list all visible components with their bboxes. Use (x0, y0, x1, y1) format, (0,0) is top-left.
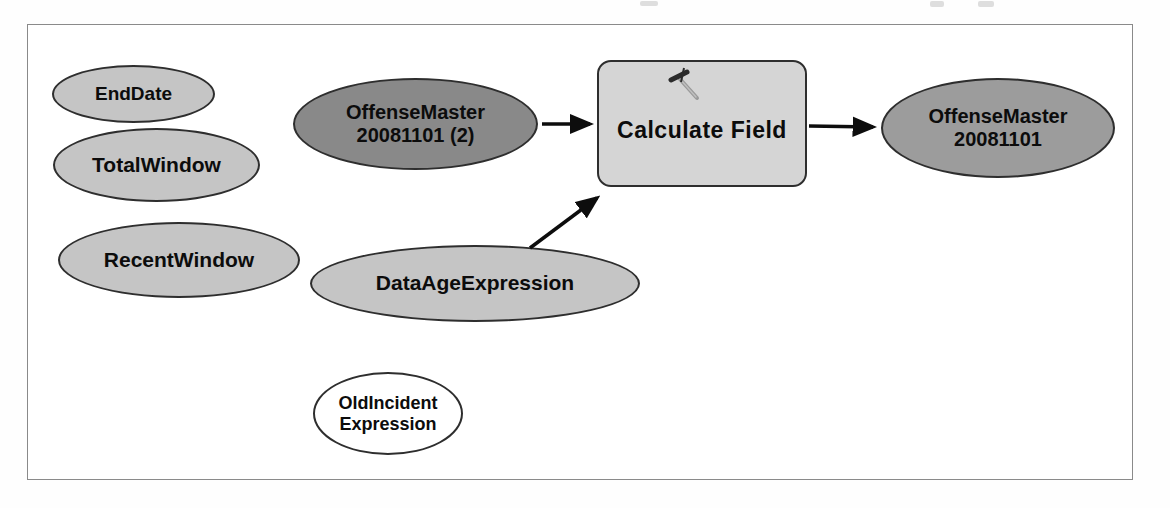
model-diagram-figure: EndDate TotalWindow RecentWindow Offense… (0, 0, 1170, 508)
node-data-age-expression[interactable]: DataAgeExpression (310, 245, 640, 322)
node-recent-window[interactable]: RecentWindow (58, 222, 300, 298)
node-label: RecentWindow (104, 248, 254, 272)
node-label: EndDate (95, 83, 172, 105)
node-label-line1: OldIncident (339, 393, 438, 414)
scan-artifact (978, 1, 994, 7)
tool-label: Calculate Field (617, 117, 787, 143)
node-label: DataAgeExpression (376, 271, 574, 295)
node-label-line1: OffenseMaster (346, 101, 485, 124)
node-offense-master-output[interactable]: OffenseMaster 20081101 (881, 78, 1115, 178)
node-end-date[interactable]: EndDate (52, 65, 215, 123)
scan-artifact (640, 1, 658, 6)
node-total-window[interactable]: TotalWindow (53, 128, 260, 202)
hammer-icon (663, 66, 711, 106)
node-offense-master-input[interactable]: OffenseMaster 20081101 (2) (293, 78, 538, 170)
node-label-line2: 20081101 (2) (357, 124, 475, 147)
scan-artifact (930, 1, 944, 7)
node-label-line2: Expression (339, 414, 436, 435)
node-label-line2: 20081101 (954, 128, 1042, 151)
node-label-line1: OffenseMaster (929, 105, 1068, 128)
node-label: TotalWindow (92, 153, 221, 177)
node-calculate-field-tool[interactable]: Calculate Field (597, 60, 807, 187)
node-old-incident-expression[interactable]: OldIncident Expression (313, 372, 463, 455)
